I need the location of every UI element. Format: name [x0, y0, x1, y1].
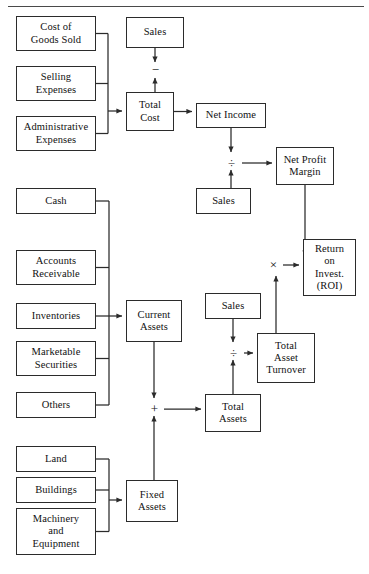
- node-total-cost[interactable]: Total Cost: [126, 92, 174, 131]
- node-label: Marketable Securities: [32, 346, 81, 370]
- node-label: Others: [42, 399, 71, 411]
- multiply-operator-roi-icon: ×: [268, 258, 279, 271]
- node-label: Buildings: [35, 484, 77, 496]
- node-sales-middle[interactable]: Sales: [196, 188, 251, 214]
- node-label: Fixed Assets: [138, 489, 166, 513]
- node-label: Sales: [144, 26, 167, 38]
- node-label: Cash: [45, 195, 66, 207]
- node-label: Total Assets: [219, 401, 247, 425]
- divide-operator-net-profit-icon: ÷: [226, 156, 237, 169]
- node-machinery-and-equipment[interactable]: Machinery and Equipment: [16, 508, 96, 555]
- minus-operator-icon: −: [150, 63, 161, 76]
- node-return-on-investment[interactable]: Return on Invest. (ROI): [303, 239, 356, 296]
- plus-operator-total-assets-icon: +: [149, 402, 160, 415]
- node-buildings[interactable]: Buildings: [16, 477, 96, 503]
- node-land[interactable]: Land: [16, 446, 96, 472]
- node-label: Return on Invest. (ROI): [315, 243, 344, 292]
- node-current-assets[interactable]: Current Assets: [126, 300, 182, 342]
- node-label: Total Cost: [139, 99, 161, 123]
- node-fixed-assets[interactable]: Fixed Assets: [126, 480, 178, 522]
- node-sales-lower[interactable]: Sales: [205, 293, 261, 319]
- node-label: Net Profit Margin: [284, 154, 327, 178]
- node-label: Cost of Goods Sold: [31, 21, 81, 45]
- node-label: Accounts Receivable: [32, 255, 80, 279]
- node-others[interactable]: Others: [16, 392, 96, 418]
- node-net-profit-margin[interactable]: Net Profit Margin: [276, 147, 334, 185]
- node-cost-of-goods-sold[interactable]: Cost of Goods Sold: [16, 16, 96, 51]
- node-label: Sales: [212, 195, 235, 207]
- node-inventories[interactable]: Inventories: [16, 303, 96, 329]
- node-label: Inventories: [32, 310, 80, 322]
- node-administrative-expenses[interactable]: Administrative Expenses: [16, 116, 96, 151]
- top-divider-rule: [8, 6, 364, 7]
- node-label: Machinery and Equipment: [33, 513, 80, 550]
- node-cash[interactable]: Cash: [16, 188, 96, 214]
- node-total-asset-turnover[interactable]: Total Asset Turnover: [257, 333, 315, 383]
- node-sales-top[interactable]: Sales: [126, 17, 184, 48]
- node-total-assets[interactable]: Total Assets: [205, 394, 261, 432]
- node-label: Selling Expenses: [36, 71, 76, 95]
- node-accounts-receivable[interactable]: Accounts Receivable: [16, 250, 96, 285]
- node-selling-expenses[interactable]: Selling Expenses: [16, 66, 96, 101]
- node-label: Land: [45, 453, 67, 465]
- node-label: Total Asset Turnover: [266, 340, 306, 377]
- flowchart-canvas: Cost of Goods Sold Selling Expenses Admi…: [0, 0, 369, 574]
- node-label: Administrative Expenses: [24, 121, 88, 145]
- node-label: Current Assets: [138, 309, 171, 333]
- divide-operator-asset-turnover-icon: ÷: [228, 346, 239, 359]
- node-net-income[interactable]: Net Income: [196, 103, 266, 128]
- node-label: Sales: [222, 300, 245, 312]
- node-label: Net Income: [206, 109, 256, 121]
- node-marketable-securities[interactable]: Marketable Securities: [16, 341, 96, 376]
